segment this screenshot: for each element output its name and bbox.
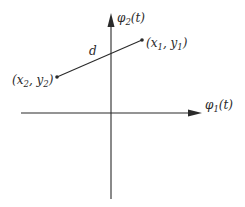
point-2-label: (x2, y2) [12, 73, 54, 89]
distance-label: d [89, 44, 97, 58]
up-arrowhead-icon [108, 13, 115, 27]
phi1-axis-label: φ1(t) [205, 98, 233, 114]
point-1-dot [140, 38, 144, 42]
point-1-label: (x1, y1) [146, 36, 188, 52]
right-arrowhead-icon [188, 110, 202, 117]
point-2-dot [55, 75, 59, 79]
phi2-axis [108, 13, 115, 199]
signal-space-diagram: φ2(t) φ1(t) d (x1, y1) (x2, y2) [0, 0, 245, 207]
distance-segment [55, 38, 144, 79]
phi2-axis-label: φ2(t) [117, 11, 145, 27]
